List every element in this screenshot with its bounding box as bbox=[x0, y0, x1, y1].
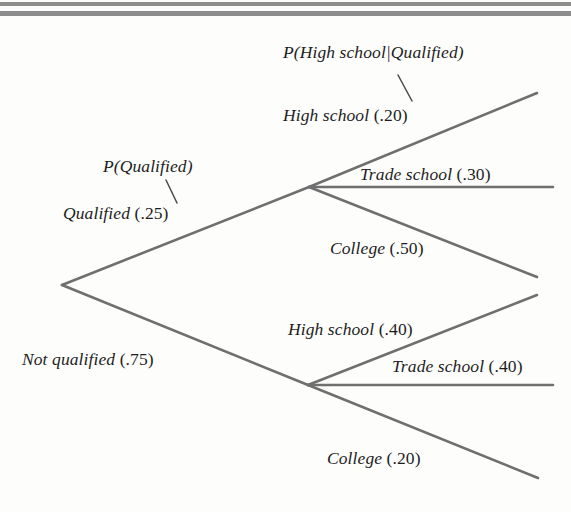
annotation-text: P(Qualified) bbox=[103, 156, 193, 176]
edge-root-qualified bbox=[62, 187, 309, 285]
branch-label-not-qualified: Not qualified (.75) bbox=[22, 351, 154, 369]
branch-label-qualified-college: College (.50) bbox=[330, 240, 424, 258]
branch-label-name: College bbox=[330, 238, 385, 258]
branch-label-probability: (.40) bbox=[374, 319, 413, 339]
branch-label-probability: (.20) bbox=[382, 448, 421, 468]
branch-label-name: College bbox=[327, 448, 382, 468]
annotation-text: P(High school|Qualified) bbox=[283, 42, 464, 62]
branch-label-probability: (.40) bbox=[484, 356, 523, 376]
leader-line-p-qualified bbox=[166, 180, 177, 203]
branch-label-name: Trade school bbox=[360, 164, 452, 184]
branch-label-name: Not qualified bbox=[22, 349, 115, 369]
branch-label-not-qualified-high-school: High school (.40) bbox=[288, 321, 413, 339]
branch-label-not-qualified-college: College (.20) bbox=[327, 450, 421, 468]
branch-label-not-qualified-trade-school: Trade school (.40) bbox=[392, 358, 523, 376]
branch-label-name: High school bbox=[283, 105, 369, 125]
branch-label-qualified-trade-school: Trade school (.30) bbox=[360, 166, 491, 184]
leader-line-p-high-school-given-qualified bbox=[398, 75, 412, 101]
branch-label-qualified-high-school: High school (.20) bbox=[283, 107, 408, 125]
probability-tree-graphic bbox=[0, 0, 571, 512]
branch-label-probability: (.20) bbox=[369, 105, 408, 125]
branch-label-name: Trade school bbox=[392, 356, 484, 376]
figure-canvas: P(High school|Qualified) High school (.2… bbox=[0, 0, 571, 512]
branch-label-probability: (.75) bbox=[115, 349, 154, 369]
branch-label-qualified: Qualified (.25) bbox=[63, 205, 169, 223]
branch-label-probability: (.50) bbox=[385, 238, 424, 258]
branch-label-name: Qualified bbox=[63, 203, 130, 223]
annotation-p-high-school-given-qualified: P(High school|Qualified) bbox=[283, 44, 464, 62]
edge-qualified-college bbox=[309, 187, 537, 277]
branch-label-probability: (.25) bbox=[130, 203, 169, 223]
branch-label-probability: (.30) bbox=[452, 164, 491, 184]
branch-label-name: High school bbox=[288, 319, 374, 339]
annotation-p-qualified: P(Qualified) bbox=[103, 158, 193, 176]
edge-root-not-qualified bbox=[62, 285, 308, 385]
